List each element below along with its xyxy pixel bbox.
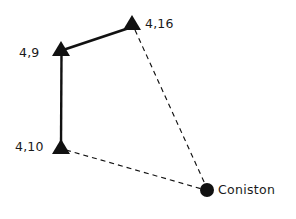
diagram-canvas: 4,16 4,9 4,10 Coniston — [0, 0, 296, 219]
edge-4-10-to-coniston — [66, 150, 202, 189]
node-label-4-10: 4,10 — [15, 141, 44, 154]
node-label-4-16: 4,16 — [145, 18, 174, 31]
node-label-4-9: 4,9 — [19, 47, 39, 60]
triangle-marker-4-16[interactable] — [123, 15, 141, 30]
circle-marker-coniston[interactable] — [200, 183, 214, 197]
edge-4-10-to-4-9 — [61, 53, 62, 146]
triangle-marker-4-10[interactable] — [52, 139, 70, 154]
edge-4-16-to-coniston — [135, 30, 205, 184]
node-label-coniston: Coniston — [218, 184, 275, 197]
edge-4-9-to-4-16 — [63, 27, 132, 50]
